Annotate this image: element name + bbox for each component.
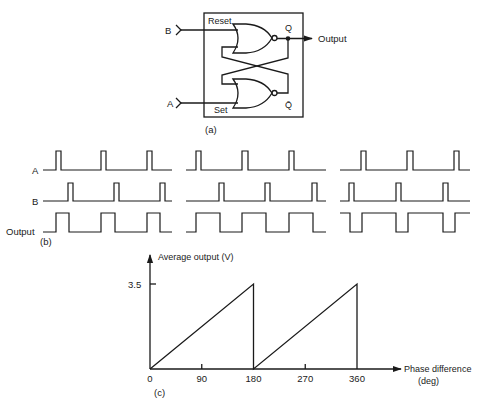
sawtooth-data-line bbox=[150, 284, 357, 369]
qbar-wire bbox=[222, 47, 288, 93]
input-b-chevron-icon bbox=[176, 25, 181, 35]
x-axis-label-line1: Phase difference bbox=[404, 364, 471, 374]
waveform-output-group-1 bbox=[43, 213, 172, 232]
reset-pin-label: Reset bbox=[208, 16, 232, 26]
x-tick-label-360: 360 bbox=[349, 373, 365, 384]
set-pin-label: Set bbox=[214, 105, 228, 115]
x-tick-label-180: 180 bbox=[246, 373, 262, 384]
waveform-output-group-2 bbox=[186, 213, 326, 232]
waveform-b-group-1 bbox=[43, 183, 172, 201]
input-b-label: B bbox=[165, 25, 171, 36]
x-tick-label-270: 270 bbox=[297, 373, 313, 384]
waveform-output-group-3 bbox=[340, 213, 470, 232]
figure-canvas: B Reset A Set Q Output Q̄ (a) A B Output… bbox=[0, 0, 480, 408]
panel-c-caption: (c) bbox=[154, 387, 165, 398]
waveform-a-group-3 bbox=[340, 151, 470, 170]
waveform-a-group-1 bbox=[43, 151, 172, 170]
waveform-label-a: A bbox=[32, 165, 39, 176]
y-tick-label-3.5: 3.5 bbox=[128, 279, 141, 290]
q-feedback-wire bbox=[222, 39, 288, 85]
x-axis-label-line2: (deg) bbox=[418, 376, 439, 386]
panel-a-caption: (a) bbox=[205, 124, 217, 135]
panel-b-timing-waveforms: A B Output (b) bbox=[6, 151, 470, 247]
waveform-label-output: Output bbox=[6, 226, 35, 237]
input-a-label: A bbox=[167, 98, 174, 109]
input-a-chevron-icon bbox=[176, 98, 181, 108]
qbar-pin-label: Q̄ bbox=[285, 100, 292, 110]
output-label: Output bbox=[318, 33, 347, 44]
nor-gate-top-icon bbox=[233, 24, 272, 53]
inverter-bubble-top-icon bbox=[272, 36, 277, 41]
panel-a-flip-flop-circuit: B Reset A Set Q Output Q̄ (a) bbox=[165, 13, 347, 135]
waveform-b-group-3 bbox=[340, 183, 470, 201]
panel-b-caption: (b) bbox=[40, 236, 52, 247]
y-axis-label: Average output (V) bbox=[158, 252, 233, 262]
waveform-a-group-2 bbox=[186, 151, 326, 170]
waveform-label-b: B bbox=[32, 196, 38, 207]
nor-gate-bottom-icon bbox=[233, 79, 272, 108]
waveform-traces bbox=[43, 151, 470, 232]
panel-c-average-output-chart: Average output (V) 3.5 090180270360 Phas… bbox=[128, 252, 471, 398]
x-tick-label-0: 0 bbox=[147, 373, 152, 384]
x-tick-label-90: 90 bbox=[196, 373, 207, 384]
waveform-b-group-2 bbox=[186, 183, 326, 201]
q-pin-label: Q bbox=[285, 23, 292, 33]
inverter-bubble-bottom-icon bbox=[272, 91, 277, 96]
